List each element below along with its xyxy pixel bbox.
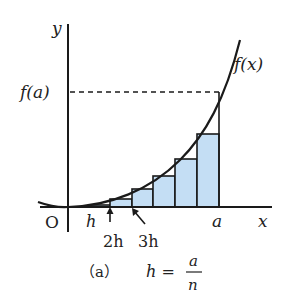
tick-label-3h: 3h [138, 232, 158, 251]
riemann-rectangles [90, 134, 219, 207]
rectangle-6 [197, 134, 219, 207]
fx-label: f(x) [232, 54, 263, 74]
caption-numerator: a [189, 252, 198, 270]
tick-label-2h: 2h [103, 232, 123, 251]
arrow-2h [107, 207, 114, 222]
y-axis-label: y [51, 18, 62, 38]
caption-tag: （a） [80, 263, 119, 281]
x-axis-label: x [258, 211, 268, 231]
fa-label: f(a) [18, 82, 50, 102]
tick-label-h: h [86, 212, 96, 231]
caption-lhs: h = [146, 262, 175, 281]
tick-label-a: a [212, 211, 222, 231]
caption-denominator: n [188, 276, 198, 294]
riemann-sum-diagram: y f(a) f(x) O h 2h 3h a x （a） h = a n [0, 0, 296, 307]
arrow-3h [132, 208, 145, 224]
origin-label: O [45, 212, 59, 232]
rectangle-5 [175, 159, 197, 207]
